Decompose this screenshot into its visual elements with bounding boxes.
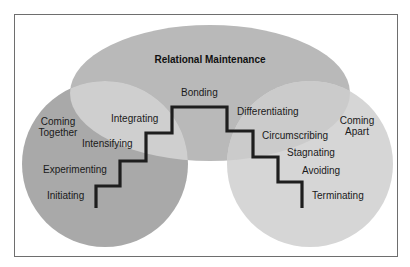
stage-differentiating: Differentiating (237, 106, 299, 117)
stage-terminating: Terminating (312, 190, 364, 201)
stage-experimenting: Experimenting (43, 164, 107, 175)
stage-intensifying: Intensifying (82, 138, 133, 149)
region-coming-apart-line2: Apart (345, 126, 369, 137)
stage-initiating: Initiating (47, 190, 84, 201)
relational-stages-diagram: Relational Maintenance Coming Together C… (0, 0, 410, 267)
stage-avoiding: Avoiding (302, 165, 340, 176)
stage-integrating: Integrating (111, 113, 158, 124)
region-coming-apart-line1: Coming (340, 115, 374, 126)
stage-stagnating: Stagnating (287, 147, 335, 158)
region-coming-together-line2: Together (39, 127, 79, 138)
diagram-title: Relational Maintenance (154, 54, 266, 65)
region-coming-together-line1: Coming (41, 116, 75, 127)
stage-circumscribing: Circumscribing (262, 130, 328, 141)
stage-bonding: Bonding (181, 87, 218, 98)
